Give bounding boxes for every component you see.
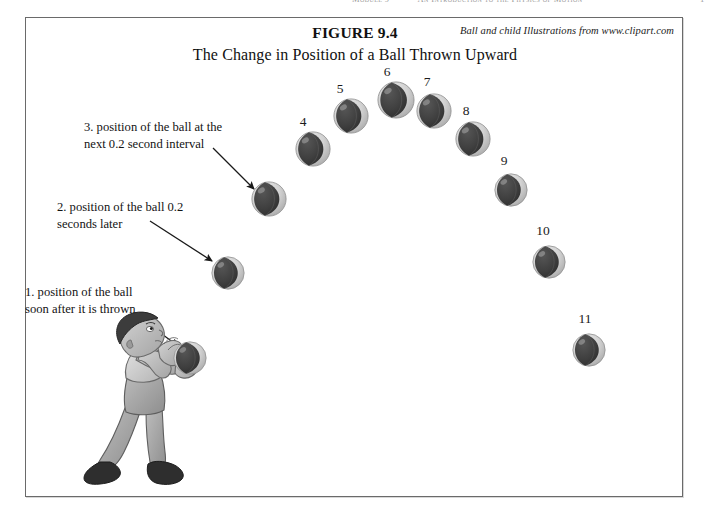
ball-label-8: 8: [455, 103, 477, 119]
callout-3-text: 3. position of the ball at the next 0.2 …: [84, 119, 284, 152]
running-head-module: Module 9: [352, 0, 389, 4]
running-head-page: 1: [700, 0, 704, 4]
running-head: Module 9 An Introduction to the Physics …: [0, 0, 708, 5]
ball-label-4: 4: [292, 114, 314, 130]
ball-label-10: 10: [532, 223, 554, 239]
illustration-credit: Ball and child Illustrations from www.cl…: [460, 25, 674, 36]
ball-label-7: 7: [416, 74, 438, 90]
ball-label-5: 5: [329, 81, 351, 97]
callout-2-text: 2. position of the ball 0.2 seconds late…: [57, 199, 237, 232]
figure-page: Module 9 An Introduction to the Physics …: [0, 0, 708, 516]
ball-label-11: 11: [574, 311, 596, 327]
ball-label-6: 6: [376, 64, 398, 80]
figure-frame: FIGURE 9.4 The Change in Position of a B…: [25, 17, 683, 497]
ball-label-9: 9: [493, 153, 515, 169]
figure-title: The Change in Position of a Ball Thrown …: [26, 46, 684, 64]
callout-1-text: 1. position of the ball soon after it is…: [25, 284, 210, 317]
running-head-title: An Introduction to the Physics of Motion: [418, 0, 583, 4]
